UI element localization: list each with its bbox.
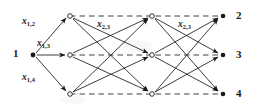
node-c2-r1 — [150, 14, 155, 19]
edge-label-sub: 1,3 — [42, 42, 50, 49]
edge-label-sub: 2,3 — [102, 23, 110, 30]
fanout-edges — [36, 18, 66, 91]
edge-label-x-1-4: x1,4 — [22, 73, 35, 83]
edge-source-to-c1r3 — [36, 57, 66, 91]
node-c1-r3 — [68, 92, 73, 97]
node-c1-r2 — [68, 53, 73, 58]
node-c2-r2 — [150, 53, 155, 58]
node-c3-r3 — [221, 92, 226, 97]
node-source-1 — [31, 53, 36, 58]
diagram-canvas — [0, 0, 257, 106]
edge-label-x-1-3: x1,3 — [37, 39, 50, 49]
node-label-terminal-2: 2 — [236, 10, 242, 21]
column-2-nodes — [150, 14, 155, 97]
column-1-nodes — [68, 14, 73, 97]
node-label-terminal-4: 4 — [236, 88, 242, 99]
node-c1-r1 — [68, 14, 73, 19]
trellis-diagram-figure: 1 2 3 4 x1,2 x1,3 x1,4 x2,3 x2,3 — [0, 0, 257, 106]
node-c2-r3 — [150, 92, 155, 97]
edge-label-sub: 2,3 — [183, 23, 191, 30]
edge-label-sub: 1,4 — [27, 76, 35, 83]
edge-label-x-1-2: x1,2 — [22, 17, 35, 27]
node-label-terminal-3: 3 — [236, 49, 242, 60]
edge-label-x-2-3-a: x2,3 — [97, 20, 110, 30]
node-c3-r2 — [221, 53, 226, 58]
node-c3-r1 — [221, 14, 226, 19]
edge-label-x-2-3-b: x2,3 — [178, 20, 191, 30]
column-3-nodes — [221, 14, 226, 97]
node-label-source-1: 1 — [13, 48, 19, 59]
edge-label-sub: 1,2 — [27, 20, 35, 27]
